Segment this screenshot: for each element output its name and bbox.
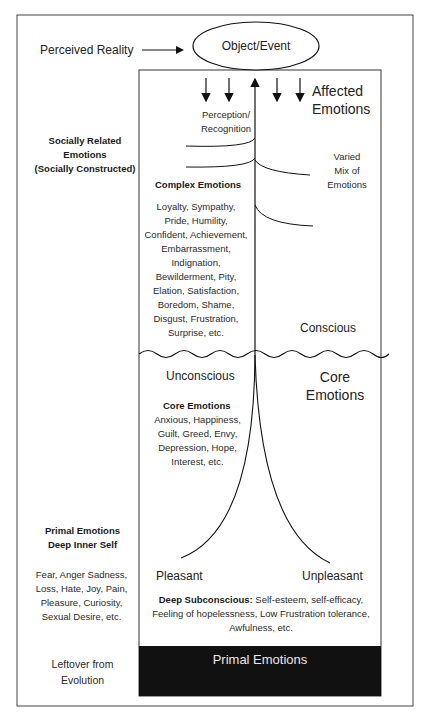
core-emotions-title: Core Emotions: [163, 399, 231, 413]
complex-item: Boredom, Shame,: [140, 298, 252, 312]
leftover-line-2: Evolution: [30, 672, 135, 688]
social-line-2: Emotions: [30, 148, 140, 162]
complex-item: Confident, Achievement,: [140, 228, 252, 242]
conscious-label: Conscious: [300, 320, 356, 336]
core-line-2: Emotions: [300, 386, 370, 404]
deep-subconscious-label: Deep Subconscious:: [159, 594, 253, 605]
complex-item: Pride, Humility,: [140, 214, 252, 228]
primal-item: Fear, Anger Sadness,: [24, 568, 139, 582]
varied-line-1: Varied: [312, 150, 382, 164]
varied-line-3: Emotions: [312, 178, 382, 192]
primal-item: Loss, Hate, Joy, Pain,: [24, 582, 139, 596]
complex-item: Indignation,: [140, 256, 252, 270]
pleasant-label: Pleasant: [156, 568, 203, 584]
unpleasant-label: Unpleasant: [302, 568, 363, 584]
affected-emotions-label: Affected Emotions: [312, 82, 370, 118]
affected-line-1: Affected: [312, 82, 370, 100]
primal-line-2: Deep Inner Self: [30, 538, 135, 552]
complex-item: Elation, Satisfaction,: [140, 284, 252, 298]
core-emotions-list: Anxious, Happiness, Guilt, Greed, Envy, …: [145, 413, 250, 469]
primal-list: Fear, Anger Sadness, Loss, Hate, Joy, Pa…: [24, 568, 139, 624]
core-line-1: Core: [300, 368, 370, 386]
complex-emotions-list: Loyalty, Sympathy, Pride, Humility, Conf…: [140, 200, 252, 340]
primal-emotions-bar: Primal Emotions: [139, 646, 381, 696]
perceived-reality-label: Perceived Reality: [40, 42, 133, 58]
deep-line-2: Feeling of hopelessness, Low Frustration…: [141, 607, 381, 621]
affected-line-2: Emotions: [312, 100, 370, 118]
varied-mix-label: Varied Mix of Emotions: [312, 150, 382, 192]
complex-item: Embarrassment,: [140, 242, 252, 256]
leftover-line-1: Leftover from: [30, 656, 135, 672]
complex-emotions-title: Complex Emotions: [155, 178, 241, 192]
primal-item: Sexual Desire, etc.: [24, 610, 139, 624]
complex-item: Disgust, Frustration,: [140, 312, 252, 326]
social-line-1: Socially Related: [30, 134, 140, 148]
core-item: Anxious, Happiness,: [145, 413, 250, 427]
primal-item: Pleasure, Curiosity,: [24, 596, 139, 610]
object-event-label: Object/Event: [200, 38, 312, 54]
deep-subconscious-text: Deep Subconscious: Self-esteem, self-eff…: [141, 593, 381, 635]
complex-item: Loyalty, Sympathy,: [140, 200, 252, 214]
core-item: Depression, Hope,: [145, 441, 250, 455]
deep-line-3: Awfulness, etc.: [141, 621, 381, 635]
perception-line-2: Recognition: [196, 122, 256, 136]
complex-item: Bewilderment, Pity,: [140, 270, 252, 284]
deep-line-1: Self-esteem, self-efficacy,: [253, 594, 364, 605]
core-emotions-label: Core Emotions: [300, 368, 370, 404]
primal-deep-inner-self-label: Primal Emotions Deep Inner Self: [30, 524, 135, 552]
primal-line-1: Primal Emotions: [30, 524, 135, 538]
perception-line-1: Perception/: [196, 108, 256, 122]
socially-related-label: Socially Related Emotions (Socially Cons…: [30, 134, 140, 176]
perception-label: Perception/ Recognition: [196, 108, 256, 136]
core-item: Interest, etc.: [145, 455, 250, 469]
complex-item: Surprise, etc.: [140, 326, 252, 340]
core-item: Guilt, Greed, Envy,: [145, 427, 250, 441]
leftover-evolution-label: Leftover from Evolution: [30, 656, 135, 688]
varied-line-2: Mix of: [312, 164, 382, 178]
social-line-3: (Socially Constructed): [30, 162, 140, 176]
unconscious-label: Unconscious: [166, 368, 235, 384]
